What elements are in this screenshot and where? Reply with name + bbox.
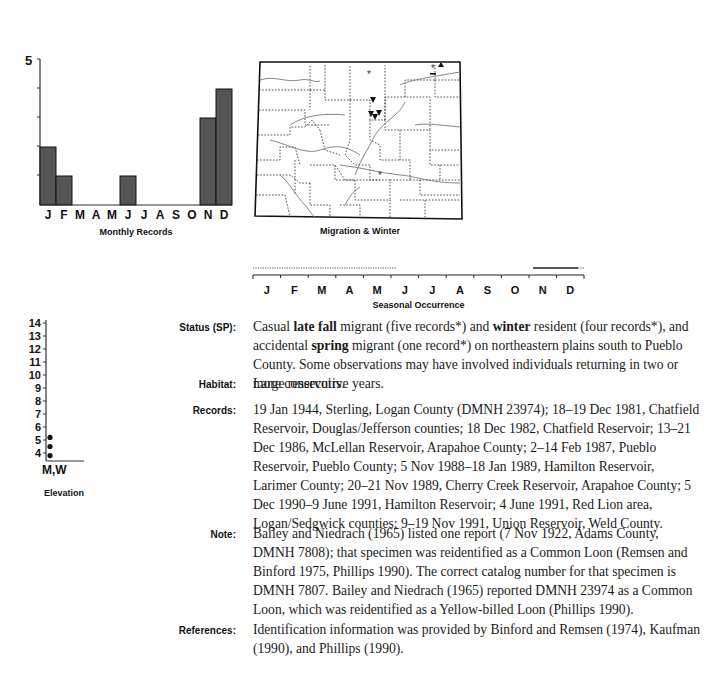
seasonal-month-label: J (419, 284, 447, 296)
seasonal-occurrence-caption: Seasonal Occurrence (253, 300, 584, 310)
seasonal-month-label: M (363, 284, 391, 296)
asterisk-marker-icon: * (378, 170, 382, 181)
note-label: Note: (140, 529, 236, 540)
colorado-map: * * * Migration & Winter (250, 55, 470, 225)
elevation-tick-label: 5 (35, 434, 41, 446)
elevation-tick-label: 6 (35, 421, 41, 433)
references-label: References: (140, 625, 236, 636)
y-axis-max-label: 5 (25, 53, 32, 68)
month-label: J (40, 208, 56, 222)
month-label: A (88, 208, 104, 222)
status-text-part: Casual (253, 319, 293, 334)
elevation-tick-label: 13 (29, 330, 41, 342)
month-label: S (168, 208, 184, 222)
month-label: A (152, 208, 168, 222)
elevation-dot (47, 435, 52, 440)
map-graphic: * * * (250, 55, 470, 225)
elevation-plot: 1413121110987654 (0, 315, 110, 465)
habitat-label: Habitat: (140, 379, 236, 390)
seasonal-x-labels: JFMAMJJASOND (253, 284, 584, 300)
elevation-dot (47, 444, 52, 449)
seasonal-month-label: J (253, 284, 281, 296)
month-label: N (200, 208, 216, 222)
seasonal-month-label: N (529, 284, 557, 296)
month-label: O (184, 208, 200, 222)
bar (56, 176, 72, 205)
bar (120, 176, 136, 205)
references-text: Identification information was provided … (253, 620, 701, 658)
elevation-x-label: M,W (42, 463, 67, 477)
asterisk-marker-icon: * (367, 69, 371, 80)
status-spring: spring (312, 338, 349, 353)
elevation-tick-label: 10 (29, 369, 41, 381)
bars (40, 89, 232, 205)
seasonal-month-label: D (556, 284, 584, 296)
elevation-tick-label: 8 (35, 395, 41, 407)
seasonal-month-label: M (308, 284, 336, 296)
elevation-chart: 1413121110987654 M,W Elevation (0, 315, 110, 500)
elevation-tick-label: 7 (35, 408, 41, 420)
habitat-text: Large reservoirs. (253, 374, 701, 393)
records-label: Records: (140, 405, 236, 416)
bar (216, 89, 232, 205)
bar (40, 147, 56, 205)
month-label: M (72, 208, 88, 222)
status-text-part: migrant (five records*) and (337, 319, 493, 334)
seasonal-occurrence-bars (250, 260, 590, 280)
elevation-tick-label: 9 (35, 382, 41, 394)
status-winter: winter (493, 319, 531, 334)
elevation-tick-label: 4 (35, 447, 42, 459)
seasonal-month-label: J (391, 284, 419, 296)
seasonal-month-label: F (281, 284, 309, 296)
seasonal-month-label: O (501, 284, 529, 296)
elevation-tick-label: 14 (29, 317, 42, 329)
monthly-x-labels: JFMAMJJASOND (40, 206, 232, 222)
seasonal-month-label: S (474, 284, 502, 296)
month-label: M (104, 208, 120, 222)
seasonal-month-label: A (446, 284, 474, 296)
asterisk-marker-icon: * (431, 63, 435, 74)
elevation-tick-label: 11 (29, 356, 41, 368)
elevation-tick-label: 12 (29, 343, 41, 355)
seasonal-month-label: A (336, 284, 364, 296)
elevation-caption: Elevation (44, 488, 84, 498)
elevation-dot (47, 453, 52, 458)
records-text: 19 Jan 1944, Sterling, Logan County (DMN… (253, 400, 701, 533)
month-label: J (120, 208, 136, 222)
seasonal-occurrence-chart: JFMAMJJASOND Seasonal Occurrence (250, 260, 590, 312)
monthly-records-caption: Monthly Records (40, 227, 232, 237)
month-label: D (216, 208, 232, 222)
note-text: Bailey and Niedrach (1965) listed one re… (253, 524, 701, 619)
status-label: Status (SP): (140, 322, 236, 333)
elevation-dots (47, 435, 52, 458)
month-label: F (56, 208, 72, 222)
map-caption: Migration & Winter (250, 226, 470, 236)
status-late-fall: late fall (293, 319, 336, 334)
month-label: J (136, 208, 152, 222)
elevation-y-ticks: 1413121110987654 (29, 317, 46, 459)
monthly-records-chart: 5 JFMAMJJASOND Monthly Records (0, 40, 240, 240)
bar (200, 118, 216, 205)
bar-marker-icon (430, 73, 436, 75)
